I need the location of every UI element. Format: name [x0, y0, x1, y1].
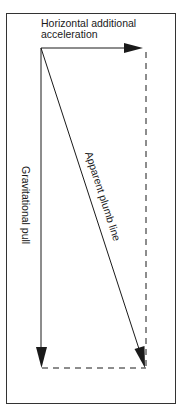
arrowhead-down-icon: [36, 347, 47, 368]
apparent-plumb-line-arrow: [41, 48, 145, 368]
arrowhead-diagonal-icon: [135, 346, 146, 368]
gravitational-pull-arrow: [36, 48, 47, 368]
horizontal-acceleration-label-line2: acceleration: [41, 28, 98, 40]
horizontal-acceleration-arrow: [41, 43, 143, 53]
arrowhead-right-icon: [124, 43, 143, 53]
gravitational-pull-label: Gravitational pull: [20, 166, 32, 244]
vector-diagram: Horizontal additional acceleration Gravi…: [0, 0, 181, 415]
